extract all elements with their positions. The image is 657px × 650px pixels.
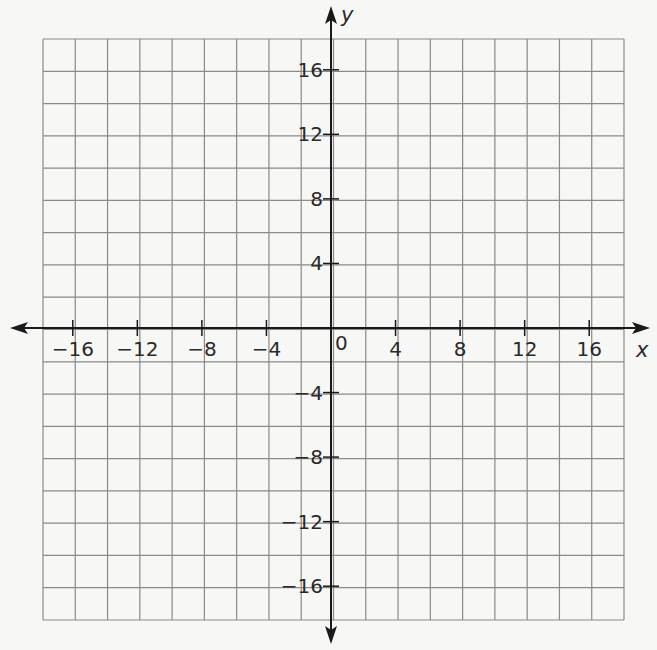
x-tick-label: −8 [187,337,216,361]
y-axis-label: y [340,3,354,27]
x-tick-label: −16 [52,337,94,361]
y-tick-label: −4 [294,381,323,405]
y-tick-label: 12 [298,122,323,146]
grid-lines [43,39,624,620]
y-tick-label: 8 [310,187,323,211]
y-tick-label: −12 [281,510,323,534]
x-tick-label: 4 [389,337,402,361]
coordinate-plane: −16−12−8−4481216161284−4−8−12−16 x y 0 [0,0,657,650]
y-tick-label: −8 [294,445,323,469]
x-tick-label: 16 [576,337,601,361]
axes [10,6,650,644]
y-tick-label: 4 [310,251,323,275]
y-tick-label: −16 [281,574,323,598]
x-tick-label: −4 [252,337,281,361]
y-tick-label: 16 [298,58,323,82]
x-tick-label: −12 [116,337,158,361]
x-tick-label: 12 [512,337,537,361]
x-tick-label: 8 [454,337,467,361]
x-axis-label: x [635,338,649,362]
origin-label: 0 [335,331,348,355]
